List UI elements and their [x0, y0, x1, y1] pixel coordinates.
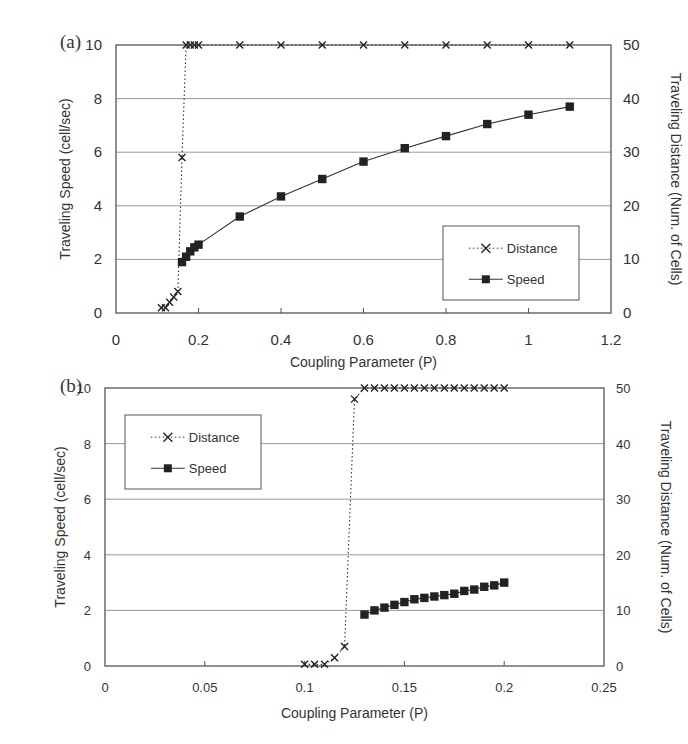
- y2-tick-label: 10: [616, 603, 630, 618]
- series-line: [305, 388, 505, 664]
- y2-tick-label: 0: [616, 659, 623, 674]
- square-marker: [194, 240, 202, 248]
- y-tick-label: 0: [94, 304, 102, 321]
- y-tick-label: 6: [84, 492, 91, 507]
- legend: DistanceSpeed: [125, 415, 261, 489]
- chart-b: 02468100102030405000.050.10.150.20.25Cou…: [52, 381, 674, 721]
- x-axis-label: Coupling Parameter (P): [290, 354, 437, 370]
- legend-distance-label: Distance: [507, 241, 558, 256]
- square-marker: [430, 592, 438, 600]
- square-marker: [360, 610, 368, 618]
- square-marker: [380, 603, 388, 611]
- legend-speed-label: Speed: [507, 272, 545, 287]
- x-marker: [174, 288, 181, 295]
- x-tick-label: 0.2: [495, 680, 513, 695]
- square-marker: [483, 120, 491, 128]
- x-tick-label: 0.15: [392, 680, 417, 695]
- chart-a: 02468100102030405000.20.40.60.811.2Coupl…: [57, 36, 684, 370]
- series-speed: [360, 578, 508, 618]
- y2-axis-label: Traveling Distance (Num. of Cells): [658, 421, 674, 634]
- x-tick-label: 0: [101, 680, 108, 695]
- legend-box: [443, 226, 579, 300]
- square-marker: [164, 464, 172, 472]
- y-tick-label: 2: [94, 250, 102, 267]
- square-marker: [470, 585, 478, 593]
- x-marker: [170, 293, 177, 300]
- square-marker: [442, 132, 450, 140]
- x-tick-label: 1.2: [601, 331, 622, 348]
- square-marker: [460, 587, 468, 595]
- legend-speed-label: Speed: [189, 461, 227, 476]
- x-tick-label: 0.4: [271, 331, 292, 348]
- y-tick-label: 8: [94, 90, 102, 107]
- square-marker: [524, 110, 532, 118]
- y-tick-label: 4: [84, 548, 91, 563]
- figure: 02468100102030405000.20.40.60.811.2Coupl…: [0, 0, 688, 744]
- square-marker: [500, 578, 508, 586]
- legend-distance-label: Distance: [189, 430, 240, 445]
- y-tick-label: 10: [85, 36, 102, 53]
- y2-axis-label: Traveling Distance (Num. of Cells): [668, 73, 684, 286]
- x-marker: [331, 654, 338, 661]
- y2-tick-label: 10: [623, 250, 640, 267]
- x-tick-label: 0.05: [192, 680, 217, 695]
- y-axis-label: Traveling Speed (cell/sec): [57, 98, 73, 259]
- square-marker: [277, 192, 285, 200]
- y2-tick-label: 50: [623, 36, 640, 53]
- x-tick-label: 0.8: [436, 331, 457, 348]
- y2-tick-label: 20: [616, 548, 630, 563]
- y2-tick-label: 40: [616, 437, 630, 452]
- square-marker: [420, 594, 428, 602]
- square-marker: [370, 606, 378, 614]
- square-marker: [318, 175, 326, 183]
- x-axis-label: Coupling Parameter (P): [281, 705, 428, 721]
- square-marker: [236, 212, 244, 220]
- square-marker: [482, 275, 490, 283]
- x-marker: [321, 661, 328, 668]
- square-marker: [401, 144, 409, 152]
- square-marker: [410, 595, 418, 603]
- legend-box: [125, 415, 261, 489]
- y-axis-label: Traveling Speed (cell/sec): [52, 446, 68, 607]
- square-marker: [359, 157, 367, 165]
- y2-tick-label: 50: [616, 381, 630, 396]
- y-tick-label: 8: [84, 437, 91, 452]
- x-tick-label: 1: [524, 331, 532, 348]
- square-marker: [566, 102, 574, 110]
- y-tick-label: 0: [84, 659, 91, 674]
- y-tick-label: 6: [94, 143, 102, 160]
- square-marker: [490, 581, 498, 589]
- y-tick-label: 4: [94, 197, 102, 214]
- square-marker: [400, 598, 408, 606]
- series-distance: [301, 385, 508, 668]
- square-marker: [390, 601, 398, 609]
- x-tick-label: 0.1: [296, 680, 314, 695]
- y2-tick-label: 20: [623, 197, 640, 214]
- x-tick-label: 0: [112, 331, 120, 348]
- y-tick-label: 2: [84, 603, 91, 618]
- square-marker: [440, 591, 448, 599]
- x-tick-label: 0.6: [353, 331, 374, 348]
- panel-b-label: (b): [60, 375, 82, 397]
- x-marker: [162, 304, 169, 311]
- x-marker: [166, 299, 173, 306]
- y2-tick-label: 30: [616, 492, 630, 507]
- legend: DistanceSpeed: [443, 226, 579, 300]
- panel-a-label: (a): [60, 31, 81, 53]
- x-tick-label: 0.25: [591, 680, 616, 695]
- y2-tick-label: 30: [623, 143, 640, 160]
- y2-tick-label: 0: [623, 304, 631, 321]
- y2-tick-label: 40: [623, 90, 640, 107]
- x-tick-label: 0.2: [188, 331, 209, 348]
- square-marker: [450, 590, 458, 598]
- square-marker: [480, 583, 488, 591]
